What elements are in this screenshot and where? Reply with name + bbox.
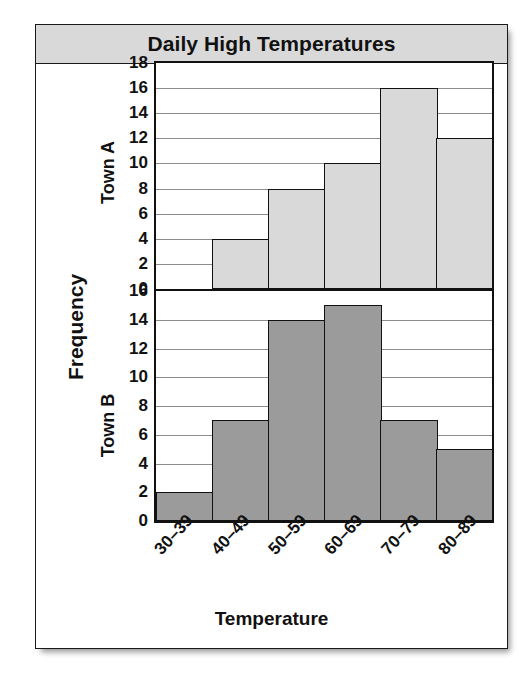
plot-area-town-a	[154, 61, 494, 291]
bar-town-b-50-59	[268, 320, 326, 521]
y-tick-label: 10	[129, 367, 148, 387]
bar-town-a-70-79	[380, 88, 438, 289]
y-tick-label: 6	[139, 204, 148, 224]
panel-label-town-b: Town B	[98, 351, 119, 501]
bar-town-b-70-79	[380, 420, 438, 521]
y-tick-label: 16	[129, 281, 148, 301]
y-tick-label: 4	[139, 454, 148, 474]
y-tick-label: 2	[139, 254, 148, 274]
y-tick-label: 14	[129, 310, 148, 330]
y-tick-label: 12	[129, 339, 148, 359]
bar-town-a-60-69	[324, 163, 382, 289]
page-title: Daily High Temperatures	[147, 32, 395, 56]
figure-title-banner: Daily High Temperatures	[36, 25, 507, 64]
y-tick-label: 8	[139, 396, 148, 416]
bar-town-a-50-59	[268, 189, 326, 289]
y-tick-label: 12	[129, 128, 148, 148]
bar-town-b-40-49	[212, 420, 270, 521]
y-tick-label: 18	[129, 53, 148, 73]
bar-town-a-80-89	[436, 138, 494, 289]
bar-town-b-60-69	[324, 305, 382, 521]
figure-card: Daily High Temperatures Frequency Town A…	[35, 24, 508, 649]
gridline	[156, 113, 492, 114]
y-tick-label: 14	[129, 103, 148, 123]
chart-panel-town-a: 024681012141618	[154, 61, 494, 291]
panel-label-town-a: Town A	[98, 98, 119, 248]
bar-town-a-40-49	[212, 239, 270, 289]
y-tick-label: 4	[139, 229, 148, 249]
x-axis-label: Temperature	[36, 608, 507, 630]
plot-area-town-b	[154, 291, 494, 523]
x-axis-tick-labels: 30–3940–4950–5960–6970–7980–89	[154, 525, 494, 601]
y-tick-label: 6	[139, 425, 148, 445]
y-tick-label: 2	[139, 482, 148, 502]
chart-panel-town-b: 0246810121416	[154, 291, 494, 523]
y-tick-label: 8	[139, 179, 148, 199]
gridline	[156, 88, 492, 89]
y-tick-label: 0	[139, 511, 148, 531]
y-tick-label: 16	[129, 78, 148, 98]
y-axis-label: Frequency	[64, 257, 88, 397]
y-tick-label: 10	[129, 153, 148, 173]
